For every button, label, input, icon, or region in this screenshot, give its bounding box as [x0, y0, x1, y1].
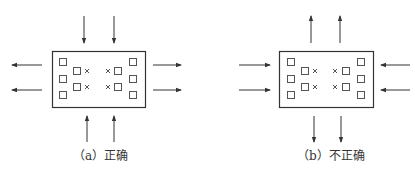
square-icons: [288, 59, 365, 99]
caption-a: （a）正确: [73, 146, 128, 163]
panel-b: [239, 16, 410, 142]
caption-b: （b）不正确: [297, 146, 365, 163]
diagram-canvas: [0, 0, 415, 169]
cross-icons: [85, 69, 110, 89]
square-icons: [60, 59, 137, 99]
arrow-icons: [12, 16, 181, 142]
cross-icons: [313, 69, 337, 89]
component-box: [280, 52, 374, 108]
panel-a: [12, 16, 181, 142]
arrow-icons: [239, 16, 410, 142]
